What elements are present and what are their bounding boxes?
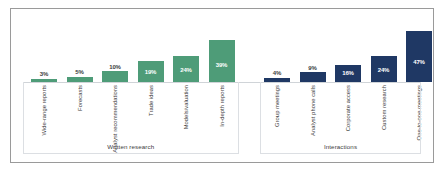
bars-layer: 3%5%10%19%24%39%4%9%16%24%47% — [23, 15, 421, 83]
chart-frame: 3%5%10%19%24%39%4%9%16%24%47% Wide-range… — [10, 8, 434, 163]
bar[interactable] — [406, 31, 432, 82]
bar-value-label: 47% — [400, 59, 438, 65]
bar-value-label: 24% — [365, 67, 403, 73]
plot-area: 3%5%10%19%24%39%4%9%16%24%47% Wide-range… — [19, 15, 425, 156]
bar-value-label: 19% — [132, 69, 170, 75]
bar-value-label: 39% — [203, 62, 241, 68]
bar[interactable] — [300, 72, 326, 82]
bar-value-label: 4% — [258, 70, 296, 76]
group-box-interactions: Interactions — [260, 82, 421, 154]
bar-value-label: 24% — [167, 67, 205, 73]
bar-value-label: 16% — [329, 70, 367, 76]
bar-value-label: 10% — [96, 64, 134, 70]
group-label-interactions: Interactions — [261, 143, 420, 150]
chart-container: 3%5%10%19%24%39%4%9%16%24%47% Wide-range… — [0, 0, 444, 177]
bar[interactable] — [102, 71, 128, 82]
bar-value-label: 3% — [25, 71, 63, 77]
group-boxes: Written research Interactions — [23, 82, 421, 154]
bar-value-label: 9% — [294, 65, 332, 71]
bar-value-label: 5% — [61, 69, 99, 75]
group-label-written-research: Written research — [24, 143, 238, 150]
group-box-written-research: Written research — [23, 82, 239, 154]
